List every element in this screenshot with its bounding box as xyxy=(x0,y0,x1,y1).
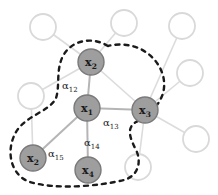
faint-node-b6 xyxy=(183,126,209,152)
edge-label-alpha-12: α12 xyxy=(62,80,78,94)
edge-label-alpha-15: α15 xyxy=(48,148,64,162)
edge-label-alpha-13: α13 xyxy=(103,117,119,131)
faint-node-b2 xyxy=(111,10,137,36)
graph-neighborhood-figure: x2 x1 x3 x4 x2 α12 α13 α14 xyxy=(0,0,218,195)
faint-node-b7 xyxy=(125,154,151,180)
graph-canvas: x2 x1 x3 x4 x2 α12 α13 α14 xyxy=(0,0,218,195)
edge-label-alpha-14: α14 xyxy=(84,137,100,151)
faint-node-b1 xyxy=(30,14,56,40)
faint-node-b3 xyxy=(169,13,195,39)
faint-node-b5 xyxy=(177,60,203,86)
faint-node-b4 xyxy=(18,83,44,109)
